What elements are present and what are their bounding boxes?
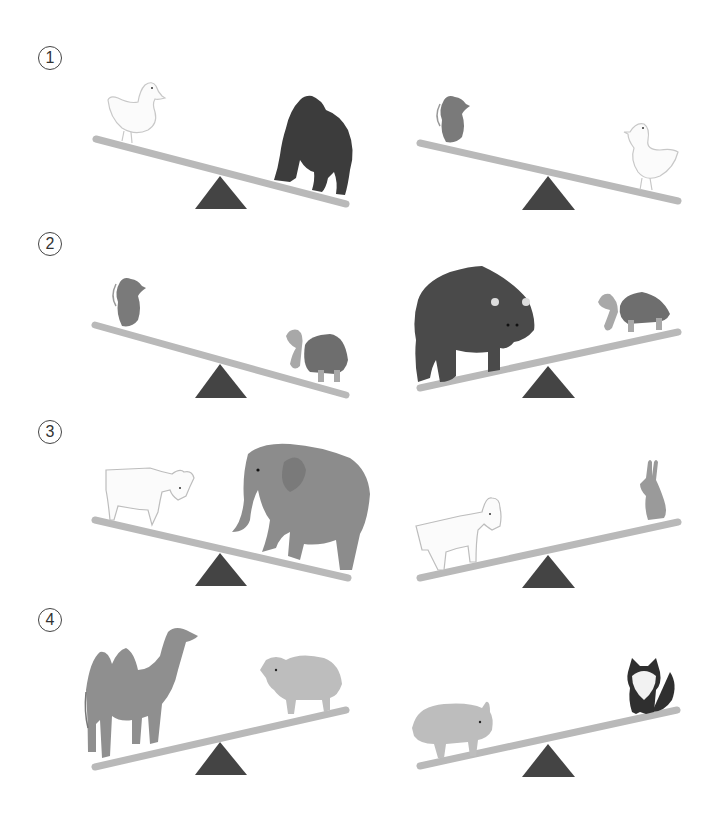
fulcrum-icon: [195, 176, 247, 209]
camel-icon: [85, 628, 198, 758]
goat-icon: [416, 498, 501, 570]
rat-icon: [113, 278, 146, 326]
pig-icon: [260, 655, 342, 714]
fulcrum-icon: [522, 366, 575, 398]
cat-icon: [627, 658, 674, 714]
seesaw-1-left: [96, 83, 353, 209]
gorilla-icon: [274, 96, 353, 195]
fulcrum-icon: [195, 364, 247, 398]
elephant-icon: [232, 444, 370, 570]
tortoise-icon: [598, 292, 670, 332]
goat-icon: [106, 468, 194, 525]
fulcrum-icon: [522, 744, 575, 777]
seesaw-3-left: [95, 444, 370, 586]
fulcrum-icon: [195, 553, 247, 586]
seesaw-2-right: [414, 266, 678, 398]
seesaw-4-left: [85, 628, 346, 775]
tortoise-icon: [286, 330, 348, 382]
fulcrum-icon: [522, 555, 575, 588]
rabbit-icon: [640, 460, 666, 520]
seesaw-2-left: [95, 278, 348, 398]
duck-icon: [108, 83, 165, 143]
fulcrum-icon: [195, 742, 247, 775]
rat-icon: [437, 96, 470, 142]
seesaw-1-right: [420, 96, 678, 210]
fulcrum-icon: [522, 176, 575, 210]
seesaw-4-right: [412, 658, 677, 777]
seesaw-3-right: [416, 460, 678, 588]
duck-icon: [624, 124, 678, 190]
